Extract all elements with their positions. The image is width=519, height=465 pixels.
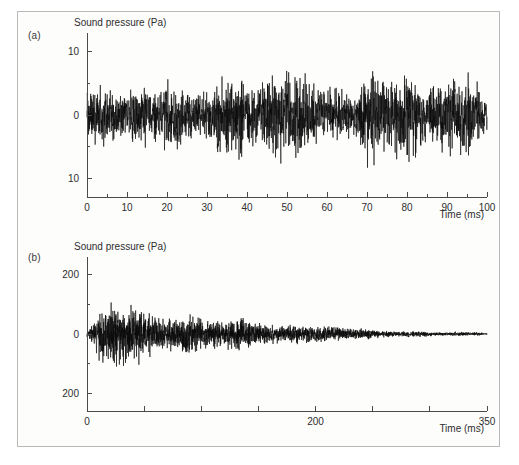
- svg-text:10: 10: [68, 46, 80, 57]
- panel-a: (a) Sound pressure (Pa) Time (ms) 100100…: [17, 11, 500, 233]
- svg-text:200: 200: [307, 416, 324, 427]
- svg-text:10: 10: [68, 173, 80, 184]
- svg-text:200: 200: [62, 388, 79, 399]
- svg-text:0: 0: [84, 202, 90, 213]
- svg-text:200: 200: [62, 269, 79, 280]
- svg-text:60: 60: [321, 202, 333, 213]
- svg-text:30: 30: [201, 202, 213, 213]
- svg-text:0: 0: [73, 329, 79, 340]
- panel-b-plot: 20002000200350: [17, 233, 500, 447]
- svg-text:350: 350: [479, 416, 496, 427]
- svg-text:50: 50: [281, 202, 293, 213]
- svg-text:0: 0: [84, 416, 90, 427]
- svg-text:40: 40: [241, 202, 253, 213]
- svg-text:80: 80: [401, 202, 413, 213]
- figure-root: (a) Sound pressure (Pa) Time (ms) 100100…: [0, 0, 519, 465]
- panel-a-plot: 100100102030405060708090100: [17, 11, 500, 233]
- panel-b: (b) Sound pressure (Pa) Time (ms) 200020…: [17, 233, 500, 447]
- svg-text:0: 0: [73, 110, 79, 121]
- svg-text:70: 70: [361, 202, 373, 213]
- svg-text:10: 10: [121, 202, 133, 213]
- svg-text:90: 90: [441, 202, 453, 213]
- svg-text:100: 100: [479, 202, 496, 213]
- svg-text:20: 20: [161, 202, 173, 213]
